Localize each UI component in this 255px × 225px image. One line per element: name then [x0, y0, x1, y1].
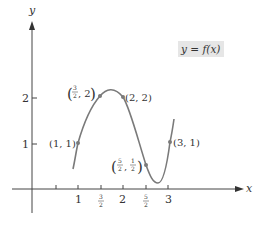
x-tick-label-1: 1	[75, 193, 82, 206]
x-tick-label-5-2: 5 2	[143, 193, 149, 208]
point-label-1-1: (1, 1)	[49, 138, 76, 149]
function-label: y = f(x)	[180, 43, 220, 55]
point-label-5-2-1-2: ( 5 2 , 1 2 )	[111, 157, 143, 176]
point-label-3-1: (3, 1)	[173, 137, 200, 148]
svg-text:1: 1	[131, 157, 135, 164]
svg-text:(: (	[67, 85, 73, 103]
svg-text:3: 3	[99, 193, 103, 200]
x-tick-label-3: 3	[165, 193, 172, 206]
function-graph: x y 1 3 2 2 5 2 3 1 2 y = f(x) (1	[0, 0, 255, 225]
y-axis-label: y	[28, 4, 36, 17]
svg-text:2: 2	[131, 165, 135, 172]
point-label-3-2-2: ( 3 2 , 2 )	[67, 84, 96, 103]
point-3-1	[168, 140, 172, 144]
point-5-2-1-2	[144, 163, 148, 167]
svg-text:2: 2	[144, 201, 148, 208]
x-tick-label-2: 2	[119, 193, 126, 206]
y-ticks	[32, 98, 37, 144]
svg-text:2: 2	[118, 165, 122, 172]
y-axis-arrow-icon	[29, 21, 35, 30]
svg-text:2: 2	[99, 201, 103, 208]
svg-text:): )	[90, 85, 96, 103]
svg-text:5: 5	[144, 193, 148, 200]
point-label-2-2: (2, 2)	[125, 92, 152, 103]
point-1-1	[76, 141, 80, 145]
x-ticks	[56, 185, 168, 189]
y-tick-label-2: 2	[22, 92, 29, 105]
svg-text:, 2: , 2	[78, 88, 91, 99]
svg-text:5: 5	[118, 157, 122, 164]
svg-text:): )	[137, 158, 143, 176]
y-tick-label-1: 1	[22, 138, 29, 151]
svg-text:2: 2	[73, 92, 77, 99]
x-axis-label: x	[246, 182, 253, 195]
svg-text:3: 3	[73, 84, 77, 91]
marked-points	[76, 94, 172, 167]
point-3-2-2	[98, 94, 102, 98]
x-tick-label-3-2: 3 2	[98, 193, 104, 208]
x-axis-arrow-icon	[235, 186, 244, 192]
svg-text:(: (	[111, 158, 117, 176]
svg-text:,: ,	[124, 161, 127, 172]
